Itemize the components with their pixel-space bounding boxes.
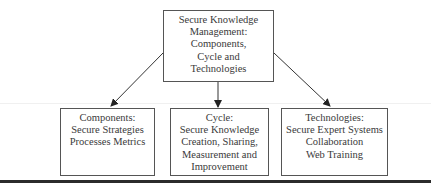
cycle-line: Secure Knowledge xyxy=(171,124,268,136)
root-line: Technologies xyxy=(164,63,273,75)
components-line: Processes Metrics xyxy=(61,136,154,148)
root-line: Secure Knowledge xyxy=(164,14,273,26)
technologies-line: Collaboration xyxy=(282,136,387,148)
components-line: Secure Strategies xyxy=(61,124,154,136)
cycle-line: Cycle: xyxy=(171,112,268,124)
arrow-to-components xyxy=(111,53,163,106)
technologies-line: Secure Expert Systems xyxy=(282,124,387,136)
arrow-to-technologies xyxy=(274,53,330,106)
root-line: Cycle and xyxy=(164,51,273,63)
bottom-rule xyxy=(0,180,431,183)
cycle-line: Creation, Sharing, xyxy=(171,136,268,148)
technologies-node-box: Technologies: Secure Expert Systems Coll… xyxy=(281,108,388,176)
components-line: Components: xyxy=(61,112,154,124)
components-node-box: Components: Secure Strategies Processes … xyxy=(60,108,155,176)
root-node-box: Secure Knowledge Management: Components,… xyxy=(163,10,274,82)
root-line: Components, xyxy=(164,38,273,50)
cycle-node-box: Cycle: Secure Knowledge Creation, Sharin… xyxy=(170,108,269,176)
root-line: Management: xyxy=(164,26,273,38)
cycle-line: Measurement and xyxy=(171,149,268,161)
technologies-line: Web Training xyxy=(282,149,387,161)
technologies-line: Technologies: xyxy=(282,112,387,124)
cycle-line: Improvement xyxy=(171,161,268,173)
